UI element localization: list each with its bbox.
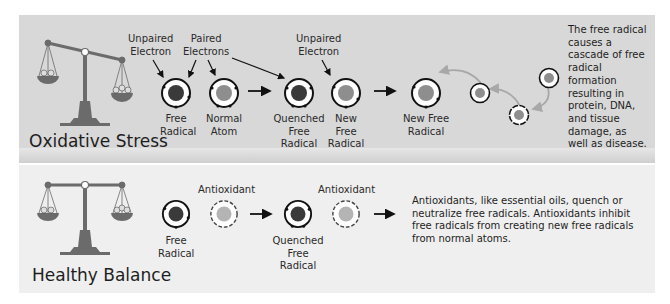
free-radical-label-bottom: Free Radical: [158, 235, 194, 260]
quenched-free-radical-label: Quenched Free Radical: [272, 113, 326, 151]
cascade-atom-3: [538, 67, 560, 89]
quenched-free-radical-atom: [283, 77, 315, 109]
antioxidant-atom: [209, 199, 239, 229]
antioxidant-label-2: Antioxidant: [318, 184, 372, 197]
new-free-radical-label: New Free Radical: [326, 113, 366, 151]
new-free-radical-atom-2: [410, 77, 442, 109]
antioxidant-label: Antioxidant: [198, 184, 252, 197]
normal-atom-label: Normal Atom: [202, 113, 246, 138]
cascade-atom-1: [469, 82, 491, 104]
balanced-scale-icon: [30, 175, 140, 270]
oxidative-stress-description: The free radical causes a cascade of fre…: [568, 24, 648, 151]
healthy-balance-title: Healthy Balance: [32, 265, 171, 285]
normal-atom: [208, 77, 240, 109]
new-free-radical-label-2: New Free Radical: [398, 113, 454, 138]
cascade-atom-2: [508, 104, 530, 126]
antioxidant-atom-2: [331, 199, 361, 229]
free-radical-atom-bottom: [161, 199, 191, 229]
free-radical-label: Free Radical: [160, 113, 192, 138]
healthy-balance-description: Antioxidants, like essential oils, quenc…: [412, 195, 647, 246]
quenched-free-radical-atom-bottom: [283, 199, 313, 229]
free-radical-atom: [160, 77, 192, 109]
quenched-free-radical-label-bottom: Quenched Free Radical: [271, 235, 325, 273]
new-free-radical-atom: [330, 77, 362, 109]
